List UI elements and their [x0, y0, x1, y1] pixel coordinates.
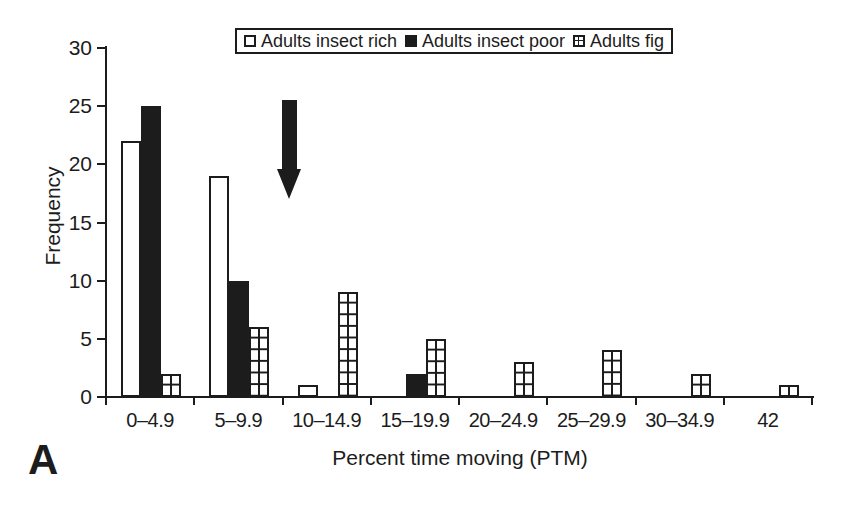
legend-label: Adults fig	[590, 31, 664, 52]
legend-marker-grid-icon	[573, 35, 585, 47]
legend-item-adults-insect-poor: Adults insect poor	[405, 31, 565, 52]
y-tick-label-25: 25	[38, 95, 92, 117]
chart-legend: Adults insect richAdults insect poorAdul…	[235, 28, 673, 54]
down-arrow-annotation-head	[277, 169, 301, 199]
y-tick-label-30: 30	[38, 37, 92, 59]
y-tick-10	[97, 280, 106, 282]
y-tick-label-15: 15	[38, 212, 92, 234]
x-tick-7	[723, 398, 725, 405]
bar-adults-fig-10-14-9	[338, 292, 358, 397]
down-arrow-annotation-shaft	[282, 100, 297, 170]
y-tick-25	[97, 105, 106, 107]
x-tick-6	[635, 398, 637, 405]
bar-adults-insect-poor-5-9-9	[229, 281, 249, 397]
legend-label: Adults insect rich	[261, 31, 397, 52]
x-tick-label-42: 42	[706, 409, 830, 431]
x-tick-2	[282, 398, 284, 405]
y-tick-20	[97, 163, 106, 165]
bar-adults-insect-poor-15-19-9	[406, 374, 426, 397]
y-tick-15	[97, 222, 106, 224]
x-tick-3	[370, 398, 372, 405]
y-tick-label-0: 0	[38, 386, 92, 408]
bar-adults-fig-0-4-9	[161, 374, 181, 397]
y-tick-label-20: 20	[38, 153, 92, 175]
x-axis-title: Percent time moving (PTM)	[106, 446, 814, 470]
bar-adults-insect-rich-5-9-9	[209, 176, 229, 397]
y-tick-5	[97, 338, 106, 340]
legend-marker-solid-icon	[405, 35, 417, 47]
bar-adults-insect-poor-0-4-9	[141, 106, 161, 397]
bar-adults-fig-30-34-9	[691, 374, 711, 397]
y-tick-label-5: 5	[38, 328, 92, 350]
bar-adults-insect-rich-0-4-9	[121, 141, 141, 397]
bar-adults-fig-5-9-9	[249, 327, 269, 397]
bar-adults-fig-25-29-9	[602, 350, 622, 397]
legend-item-adults-insect-rich: Adults insect rich	[244, 31, 397, 52]
legend-item-adults-fig: Adults fig	[573, 31, 664, 52]
bar-adults-fig-42	[779, 385, 799, 397]
bar-adults-fig-20-24-9	[514, 362, 534, 397]
x-tick-8	[811, 398, 813, 405]
x-tick-1	[193, 398, 195, 405]
panel-label: A	[28, 436, 58, 484]
legend-marker-open-icon	[244, 35, 256, 47]
bar-adults-insect-rich-10-14-9	[298, 385, 318, 397]
y-tick-30	[97, 47, 106, 49]
x-tick-0	[105, 398, 107, 405]
bar-adults-fig-15-19-9	[426, 339, 446, 397]
x-tick-5	[546, 398, 548, 405]
legend-label: Adults insect poor	[422, 31, 565, 52]
y-tick-label-10: 10	[38, 270, 92, 292]
x-tick-4	[458, 398, 460, 405]
frequency-histogram-panel-a: Adults insect richAdults insect poorAdul…	[0, 0, 852, 505]
